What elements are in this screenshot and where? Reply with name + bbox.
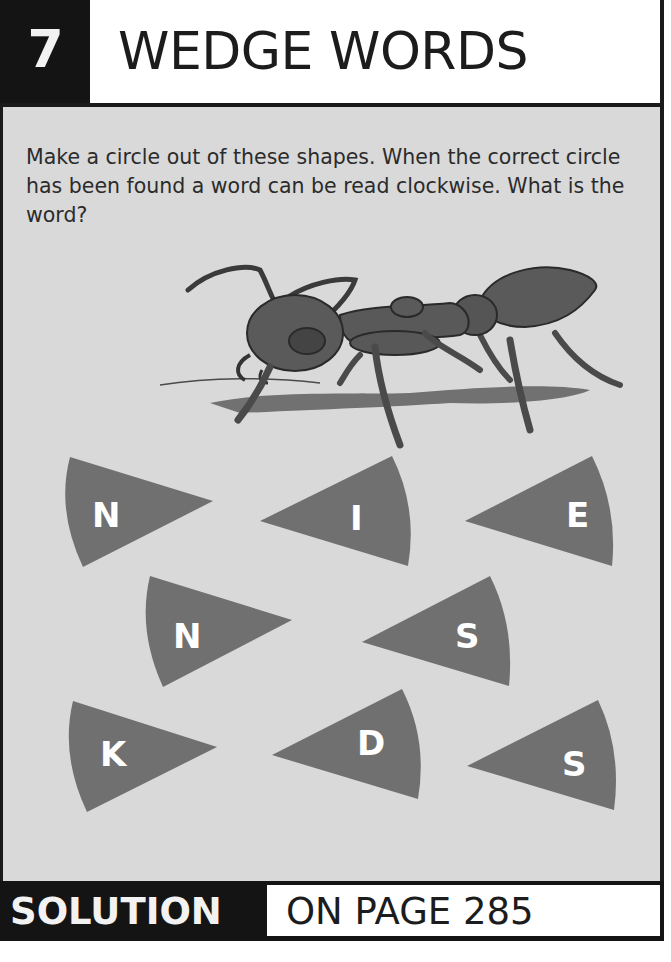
svg-text:S: S <box>455 616 480 656</box>
svg-text:K: K <box>100 734 128 774</box>
solution-page-ref: ON PAGE 285 <box>286 888 534 936</box>
wedge-piece[interactable]: K <box>69 701 217 812</box>
wedge-piece[interactable]: N <box>146 576 292 687</box>
wedge-piece[interactable]: E <box>465 456 613 566</box>
wedge-piece[interactable]: N <box>65 457 213 567</box>
svg-text:N: N <box>92 495 120 535</box>
svg-text:N: N <box>173 616 201 656</box>
wedge-piece[interactable]: I <box>260 456 411 566</box>
svg-text:S: S <box>562 744 587 784</box>
puzzle-page: 7 WEDGE WORDS Make a circle out of these… <box>0 0 671 962</box>
solution-label: SOLUTION <box>10 888 222 936</box>
wedge-piece[interactable]: D <box>272 689 421 799</box>
svg-text:E: E <box>566 495 589 535</box>
wedge-pieces: N I E N S K D S <box>0 0 671 962</box>
svg-text:D: D <box>357 723 385 763</box>
svg-text:I: I <box>350 498 363 538</box>
wedge-piece[interactable]: S <box>467 700 616 810</box>
wedge-piece[interactable]: S <box>362 576 510 686</box>
